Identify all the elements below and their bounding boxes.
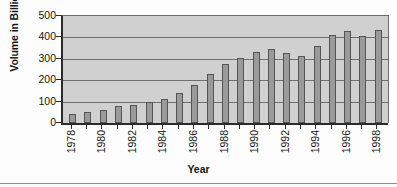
x-tick-mark xyxy=(269,124,270,129)
bar xyxy=(222,64,229,123)
x-tick-mark xyxy=(239,124,240,129)
x-tick-label: 1994 xyxy=(310,130,321,153)
x-tick-label: 1982 xyxy=(127,130,138,153)
x-tick-mark xyxy=(285,124,286,129)
bar xyxy=(191,85,198,123)
bar-series xyxy=(63,16,388,123)
x-tick-mark xyxy=(300,124,301,129)
bar-slot xyxy=(80,16,95,123)
y-axis-title: Volume in Billion USD xyxy=(8,0,20,76)
bar xyxy=(359,36,366,123)
bar-slot xyxy=(111,16,126,123)
bar xyxy=(100,110,107,123)
bar xyxy=(207,74,214,123)
x-tick-mark xyxy=(224,124,225,129)
bar-slot xyxy=(96,16,111,123)
x-tick-label: 1978 xyxy=(66,130,77,153)
y-axis-tick-labels: 0100200300400500 xyxy=(24,9,56,129)
x-tick-mark xyxy=(132,124,133,129)
bar-slot xyxy=(371,16,386,123)
bar xyxy=(298,56,305,123)
bar-slot xyxy=(325,16,340,123)
x-tick-mark xyxy=(71,124,72,129)
x-tick-mark xyxy=(208,124,209,129)
bar xyxy=(130,105,137,123)
x-tick-mark xyxy=(117,124,118,129)
bar xyxy=(344,31,351,123)
x-tick-mark xyxy=(178,124,179,129)
bar xyxy=(146,102,153,123)
x-tick-mark xyxy=(331,124,332,129)
bar-slot xyxy=(310,16,325,123)
bar-slot xyxy=(294,16,309,123)
bar-slot xyxy=(279,16,294,123)
x-tick-label: 1996 xyxy=(341,130,352,153)
bar-slot xyxy=(355,16,370,123)
bar-slot xyxy=(340,16,355,123)
bar xyxy=(161,99,168,123)
x-tick-label: 1984 xyxy=(157,130,168,153)
x-tick-mark xyxy=(254,124,255,129)
x-tick-mark xyxy=(361,124,362,129)
y-tick-label: 100 xyxy=(24,95,56,107)
plot-area xyxy=(61,15,389,123)
y-tick-label: 400 xyxy=(24,30,56,42)
x-tick-mark xyxy=(376,124,377,129)
x-axis-tick-labels: 1978198019821984198619881990199219941996… xyxy=(61,130,386,160)
x-tick-label: 1986 xyxy=(188,130,199,153)
x-tick-label: 1988 xyxy=(219,130,230,153)
x-tick-mark xyxy=(346,124,347,129)
x-tick-label: 1980 xyxy=(96,130,107,153)
x-tick-label: 1998 xyxy=(371,130,382,153)
bar xyxy=(84,112,91,123)
bar xyxy=(375,30,382,123)
bar-slot xyxy=(65,16,80,123)
bar-slot xyxy=(218,16,233,123)
y-tick-label: 200 xyxy=(24,73,56,85)
bar-slot xyxy=(172,16,187,123)
bar xyxy=(237,58,244,123)
bar xyxy=(176,93,183,123)
x-axis-title: Year xyxy=(0,163,397,175)
bar-slot xyxy=(203,16,218,123)
bar xyxy=(283,53,290,123)
x-tick-mark xyxy=(162,124,163,129)
x-tick-label: 1992 xyxy=(280,130,291,153)
y-tick-label: 300 xyxy=(24,52,56,64)
bar xyxy=(253,52,260,123)
bar xyxy=(69,114,76,123)
y-tick-label: 500 xyxy=(24,9,56,21)
bar-slot xyxy=(157,16,172,123)
x-tick-mark xyxy=(101,124,102,129)
x-tick-mark xyxy=(193,124,194,129)
bar-slot xyxy=(233,16,248,123)
bar-slot xyxy=(141,16,156,123)
bar xyxy=(115,106,122,123)
bar-slot xyxy=(264,16,279,123)
bar xyxy=(314,46,321,123)
x-tick-mark xyxy=(147,124,148,129)
bar-slot xyxy=(126,16,141,123)
bar-slot xyxy=(248,16,263,123)
footer-rule xyxy=(0,183,397,184)
bar xyxy=(268,49,275,123)
x-tick-mark xyxy=(86,124,87,129)
bar-slot xyxy=(187,16,202,123)
y-tick-label: 0 xyxy=(24,116,56,128)
chart-figure: Volume in Billion USD 0100200300400500 1… xyxy=(0,0,397,187)
bar xyxy=(329,35,336,123)
x-tick-label: 1990 xyxy=(249,130,260,153)
x-tick-mark xyxy=(315,124,316,129)
